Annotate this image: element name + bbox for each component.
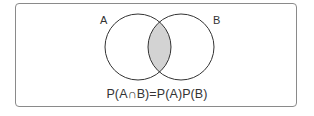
formula-text: P(A∩B)=P(A)P(B) bbox=[0, 87, 314, 101]
set-a-label: A bbox=[100, 14, 107, 26]
set-b-label: B bbox=[213, 14, 220, 26]
